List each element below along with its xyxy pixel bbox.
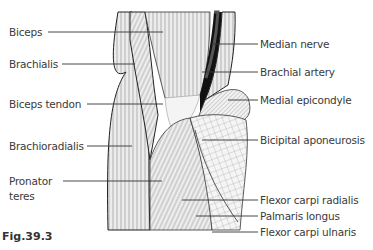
- label-median-nerve: Median nerve: [260, 38, 329, 50]
- biceps-shape: [145, 12, 210, 99]
- label-palmaris-longus: Palmaris longus: [260, 210, 340, 222]
- label-biceps: Biceps: [9, 26, 42, 38]
- label-brachioradialis: Brachioradialis: [9, 140, 84, 152]
- label-bicipital-aponeurosis: Bicipital aponeurosis: [260, 134, 365, 146]
- label-pronator-teres-line2: teres: [9, 190, 35, 202]
- label-flexor-carpi-ulnaris: Flexor carpi ulnaris: [260, 226, 356, 238]
- label-brachial-artery: Brachial artery: [260, 66, 335, 78]
- label-biceps-tendon: Biceps tendon: [9, 98, 81, 110]
- label-pronator-teres-line1: Pronator: [9, 175, 52, 187]
- label-medial-epicondyle: Medial epicondyle: [260, 94, 352, 106]
- label-brachialis: Brachialis: [9, 58, 58, 70]
- label-flexor-carpi-radialis: Flexor carpi radialis: [260, 194, 359, 206]
- figure-caption: Fig.39.3: [2, 230, 52, 243]
